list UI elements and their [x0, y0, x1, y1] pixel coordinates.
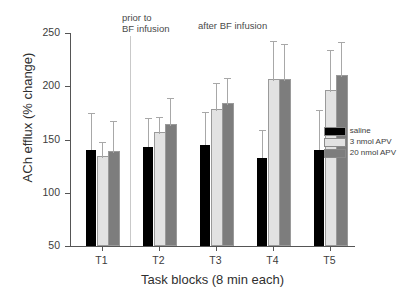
phase-divider-line: [130, 36, 131, 246]
y-tick-label: 150: [26, 134, 60, 144]
error-bar: [216, 84, 217, 111]
error-bar-cap: [145, 118, 152, 119]
annotation-prior-to-bf-infusion: prior to BF infusion: [122, 12, 170, 34]
legend-label: saline: [350, 126, 371, 136]
chart-figure: ACh efflux (% change) Task blocks (8 min…: [0, 0, 402, 298]
x-tick-label: T3: [196, 254, 236, 266]
annotation-after-bf-infusion: after BF infusion: [198, 20, 267, 31]
legend-item-saline: saline: [324, 126, 396, 136]
legend-item-20-nmol-apv: 20 nmol APV: [324, 148, 396, 158]
error-bar-cap: [327, 50, 334, 51]
legend-swatch-icon: [324, 149, 346, 158]
error-bar-cap: [110, 121, 117, 122]
bar-t5-saline: [314, 150, 324, 246]
error-bar: [113, 122, 114, 153]
legend-label: 3 nmol APV: [350, 137, 392, 147]
x-tick-label: T1: [82, 254, 122, 266]
y-tick-mark: [65, 246, 70, 247]
y-tick-label: 250: [26, 27, 60, 37]
error-bar-cap: [338, 42, 345, 43]
bar-t5-20-nmol-apv: [336, 75, 348, 246]
y-tick-label: 50: [26, 240, 60, 250]
legend-label: 20 nmol APV: [350, 148, 396, 158]
error-bar: [319, 111, 320, 150]
error-bar-cap: [316, 110, 323, 111]
error-bar-cap: [88, 113, 95, 114]
x-tick-label: T2: [139, 254, 179, 266]
x-tick-label: T5: [310, 254, 350, 266]
error-bar: [148, 119, 149, 147]
bar-t1-20-nmol-apv: [108, 151, 120, 246]
error-bar: [330, 51, 331, 91]
legend-swatch-icon: [324, 127, 346, 136]
y-tick-label: 100: [26, 187, 60, 197]
error-bar: [273, 42, 274, 81]
x-axis-line: [70, 246, 355, 247]
error-bar: [262, 131, 263, 158]
bar-t1-saline: [86, 150, 96, 246]
x-tick-mark: [216, 246, 217, 251]
error-bar-cap: [259, 130, 266, 131]
x-tick-mark: [330, 246, 331, 251]
x-tick-mark: [273, 246, 274, 251]
error-bar-cap: [99, 142, 106, 143]
error-bar-cap: [156, 117, 163, 118]
error-bar-cap: [281, 44, 288, 45]
legend-item-3-nmol-apv: 3 nmol APV: [324, 137, 396, 147]
bar-t4-saline: [257, 158, 267, 246]
plot-area: [70, 33, 355, 246]
error-bar-cap: [270, 41, 277, 42]
error-bar: [284, 45, 285, 81]
bar-t2-saline: [143, 147, 153, 246]
legend: saline3 nmol APV20 nmol APV: [324, 126, 396, 159]
error-bar: [341, 43, 342, 77]
error-bar: [227, 79, 228, 106]
error-bar-cap: [167, 98, 174, 99]
bar-t3-20-nmol-apv: [222, 103, 234, 246]
x-axis-title: Task blocks (8 min each): [70, 272, 355, 287]
x-tick-mark: [159, 246, 160, 251]
x-tick-mark: [102, 246, 103, 251]
bar-t2-20-nmol-apv: [165, 124, 177, 246]
error-bar: [170, 99, 171, 126]
bar-t3-saline: [200, 145, 210, 246]
bar-t4-20-nmol-apv: [279, 79, 291, 246]
error-bar-cap: [202, 112, 209, 113]
legend-swatch-icon: [324, 138, 346, 147]
y-tick-label: 200: [26, 80, 60, 90]
error-bar-cap: [224, 78, 231, 79]
error-bar-cap: [213, 83, 220, 84]
error-bar: [102, 143, 103, 158]
error-bar: [91, 114, 92, 150]
x-tick-label: T4: [253, 254, 293, 266]
error-bar: [159, 118, 160, 134]
error-bar: [205, 113, 206, 145]
